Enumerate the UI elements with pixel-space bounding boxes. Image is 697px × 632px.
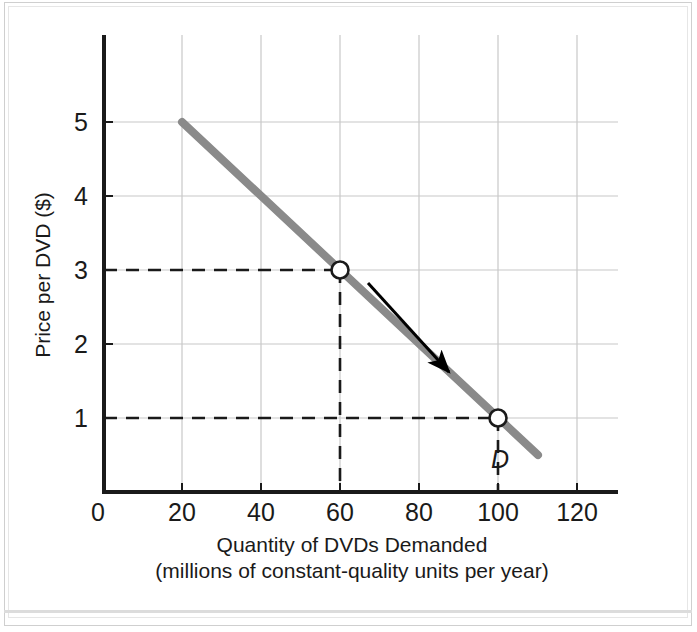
y-tick-label-5: 5 — [74, 108, 88, 136]
data-point-marker-60-3 — [332, 262, 349, 279]
x-tick-label-60: 60 — [326, 498, 354, 526]
demand-curve-label: D — [491, 445, 509, 473]
demand-curve-line — [182, 122, 538, 455]
gridlines — [103, 35, 618, 492]
data-point-marker-100-1 — [490, 410, 507, 427]
x-tick-label-100: 100 — [477, 498, 519, 526]
x-axis-title-line2: (millions of constant-quality units per … — [155, 559, 548, 582]
demand-curve-series — [182, 122, 538, 455]
y-axis-title: Price per DVD ($) — [31, 192, 54, 358]
guide-lines — [104, 270, 498, 492]
movement-along-curve-arrow — [368, 283, 449, 372]
arrow-shaft — [368, 283, 449, 372]
y-tick-label-2: 2 — [74, 330, 88, 358]
figure-page: 5 4 3 2 1 0 20 40 60 80 100 120 D Quanti… — [0, 0, 697, 632]
vertical-gridlines — [182, 35, 577, 492]
y-tick-label-1: 1 — [74, 404, 88, 432]
y-tick-label-3: 3 — [74, 256, 88, 284]
x-tick-label-20: 20 — [168, 498, 196, 526]
x-tick-label-120: 120 — [556, 498, 598, 526]
x-tick-label-40: 40 — [247, 498, 275, 526]
y-tick-label-4: 4 — [74, 182, 88, 210]
x-tick-label-0: 0 — [91, 498, 105, 526]
x-axis-title-line1: Quantity of DVDs Demanded — [217, 533, 488, 556]
x-axis-tick-labels: 0 20 40 60 80 100 120 — [91, 498, 598, 526]
demand-curve-chart: 5 4 3 2 1 0 20 40 60 80 100 120 D Quanti… — [0, 0, 697, 632]
y-axis-tick-labels: 5 4 3 2 1 — [74, 108, 88, 432]
x-tick-label-80: 80 — [405, 498, 433, 526]
axes — [102, 35, 618, 493]
